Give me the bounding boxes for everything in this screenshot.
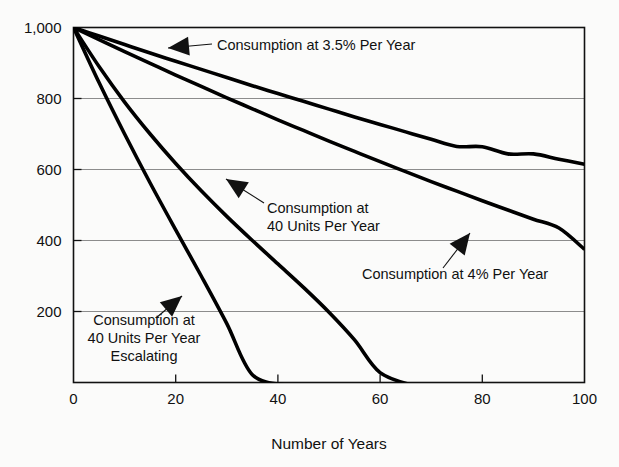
annotation-label-line: Consumption at: [267, 200, 369, 216]
y-tick-label: 600: [36, 161, 61, 178]
x-tick-label: 80: [474, 390, 491, 407]
x-tick-label: 60: [372, 390, 389, 407]
x-tick-label: 100: [572, 390, 597, 407]
y-tick-label: 1,000: [24, 19, 62, 36]
annotation-label: Consumption at 3.5% Per Year: [217, 37, 415, 53]
annotation-label-line: 40 Units Per Year: [267, 218, 380, 234]
x-tick-label: 20: [167, 390, 184, 407]
annotation-label-line: Escalating: [111, 348, 178, 364]
annotation-label-line: Consumption at 4% Per Year: [362, 266, 548, 282]
y-tick-label: 400: [36, 232, 61, 249]
annotation-label-line: Consumption at 3.5% Per Year: [217, 37, 415, 53]
chart-page: Consumption at 3.5% Per YearConsumption …: [0, 0, 619, 467]
x-tick-label: 40: [270, 390, 287, 407]
y-tick-label: 200: [36, 303, 61, 320]
annotation-label-line: Consumption at: [93, 312, 195, 328]
x-tick-label: 0: [69, 390, 77, 407]
x-axis-title: Number of Years: [271, 435, 387, 452]
y-tick-label: 800: [36, 90, 61, 107]
annotation-label-line: 40 Units Per Year: [88, 330, 201, 346]
annotation-label: Consumption at 4% Per Year: [362, 266, 548, 282]
line-chart: Consumption at 3.5% Per YearConsumption …: [0, 0, 619, 467]
